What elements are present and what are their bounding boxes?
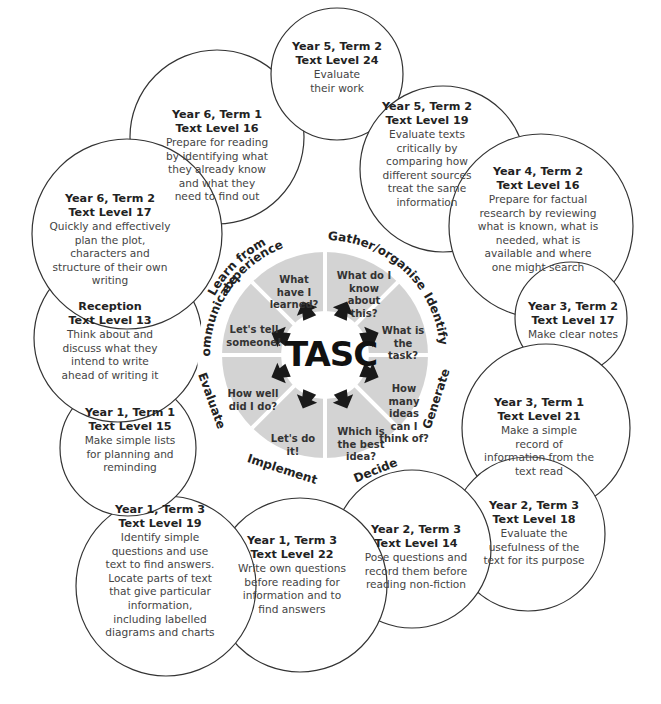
objective-description: Identify simple questions and use text t… [102, 531, 218, 640]
segment-question-evaluate: How well did I do? [225, 388, 281, 413]
year-term: Year 3, Term 2 [523, 300, 623, 314]
text-level: Text Level 19 [372, 114, 482, 128]
objective-description: Evaluate the usefulness of the text for … [480, 527, 588, 568]
year-term: Year 3, Term 1 [478, 396, 600, 410]
objective-description: Write own questions before reading for i… [236, 562, 348, 616]
text-level: Text Level 17 [45, 206, 175, 220]
year-term: Year 1, Term 1 [78, 406, 182, 420]
objective-description: Evaluate their work [302, 68, 372, 95]
objective-bubble: Year 4, Term 2 Text Level 16 Prepare for… [467, 165, 609, 275]
objective-bubble: Year 6, Term 1 Text Level 16 Prepare for… [160, 108, 274, 204]
year-term: Year 6, Term 1 [160, 108, 274, 122]
text-level: Text Level 19 [100, 517, 220, 531]
tasc-diagram: Learn from experience Gather/organise Id… [0, 0, 661, 704]
year-term: Year 6, Term 2 [45, 192, 175, 206]
objective-description: Prepare for factual research by reviewin… [474, 193, 602, 275]
hub-label: TASC [285, 334, 377, 374]
text-level: Text Level 18 [478, 513, 590, 527]
objective-bubble: Year 2, Term 3 Text Level 18 Evaluate th… [478, 499, 590, 568]
text-level: Text Level 24 [283, 54, 391, 68]
objective-description: Think about and discuss what they intend… [53, 328, 167, 382]
text-level: Text Level 22 [232, 548, 352, 562]
objective-bubble: Year 3, Term 1 Text Level 21 Make a simp… [478, 396, 600, 478]
objective-description: Make a simple record of information from… [484, 424, 594, 478]
text-level: Text Level 15 [78, 420, 182, 434]
objective-description: Evaluate texts critically by comparing h… [381, 128, 473, 210]
objective-bubble: Year 2, Term 3 Text Level 14 Pose questi… [362, 523, 470, 592]
segment-question-identify: What is the task? [377, 325, 429, 363]
year-term: Year 4, Term 2 [467, 165, 609, 179]
segment-question-implement: Let's do it! [270, 433, 316, 458]
objective-bubble: Year 5, Term 2 Text Level 24 Evaluate th… [283, 40, 391, 95]
objective-bubble: Year 1, Term 3 Text Level 22 Write own q… [232, 534, 352, 616]
text-level: Text Level 13 [52, 314, 168, 328]
segment-question-learn: What have I learned? [264, 274, 324, 312]
objective-description: Pose questions and record them before re… [364, 551, 468, 592]
text-level: Text Level 21 [478, 410, 600, 424]
year-term: Reception [52, 300, 168, 314]
year-term: Year 1, Term 3 [232, 534, 352, 548]
text-level: Text Level 17 [523, 314, 623, 328]
year-term: Year 5, Term 2 [372, 100, 482, 114]
objective-bubble: Year 1, Term 3 Text Level 19 Identify si… [100, 503, 220, 640]
objective-bubble: Year 1, Term 1 Text Level 15 Make simple… [78, 406, 182, 475]
text-level: Text Level 14 [362, 537, 470, 551]
year-term: Year 5, Term 2 [283, 40, 391, 54]
text-level: Text Level 16 [160, 122, 274, 136]
objective-description: Make simple lists for planning and remin… [80, 434, 180, 475]
year-term: Year 1, Term 3 [100, 503, 220, 517]
year-term: Year 2, Term 3 [362, 523, 470, 537]
segment-question-communicate: Let's tell someone! [224, 324, 284, 349]
objective-description: Make clear notes [523, 328, 623, 342]
objective-bubble: Year 5, Term 2 Text Level 19 Evaluate te… [372, 100, 482, 210]
text-level: Text Level 16 [467, 179, 609, 193]
objective-bubble: Year 3, Term 2 Text Level 17 Make clear … [523, 300, 623, 342]
objective-description: Prepare for reading by identifying what … [165, 136, 269, 204]
year-term: Year 2, Term 3 [478, 499, 590, 513]
segment-question-decide: Which is the best idea? [333, 426, 389, 464]
objective-bubble: Reception Text Level 13 Think about and … [52, 300, 168, 382]
segment-question-gather: What do I know about this? [334, 270, 394, 320]
objective-bubble: Year 6, Term 2 Text Level 17 Quickly and… [45, 192, 175, 288]
objective-description: Quickly and effectively plan the plot, c… [45, 220, 175, 288]
